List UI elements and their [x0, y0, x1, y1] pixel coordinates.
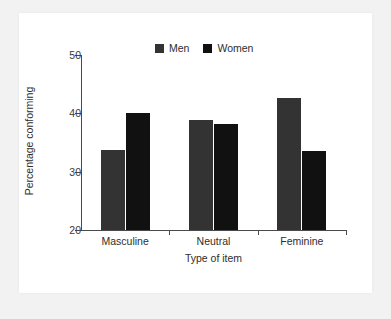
bar-chart: Men Women 20304050 MasculineNeutralFemin…	[0, 0, 391, 319]
men-swatch	[155, 44, 164, 53]
women-swatch	[203, 44, 212, 53]
y-tick-label-wrap: 30	[46, 167, 81, 177]
x-axis-title: Type of item	[81, 252, 346, 264]
bar-women-neutral	[214, 124, 238, 230]
y-axis-line	[81, 55, 82, 231]
y-tick-label: 30	[55, 167, 81, 177]
legend-label-men: Men	[169, 43, 189, 54]
bar-women-masculine	[126, 113, 150, 230]
y-tick-label: 50	[55, 50, 81, 60]
category-label-feminine: Feminine	[242, 235, 362, 247]
y-axis-title: Percentage conforming	[23, 71, 35, 211]
y-tick-label-wrap: 40	[46, 108, 81, 118]
bar-men-neutral	[189, 120, 213, 230]
y-tick-label-wrap: 50	[46, 50, 81, 60]
bar-women-feminine	[302, 151, 326, 230]
bar-men-masculine	[101, 150, 125, 230]
legend-entry-women: Women	[203, 43, 253, 54]
y-tick-label-wrap: 20	[46, 225, 81, 235]
legend-entry-men: Men	[155, 43, 189, 54]
figure: Men Women 20304050 MasculineNeutralFemin…	[0, 0, 391, 319]
y-tick-label: 40	[55, 108, 81, 118]
bar-men-feminine	[277, 98, 301, 230]
chart-legend: Men Women	[155, 43, 253, 54]
legend-label-women: Women	[217, 43, 253, 54]
x-axis-line	[81, 230, 346, 231]
y-tick-label: 20	[55, 225, 81, 235]
